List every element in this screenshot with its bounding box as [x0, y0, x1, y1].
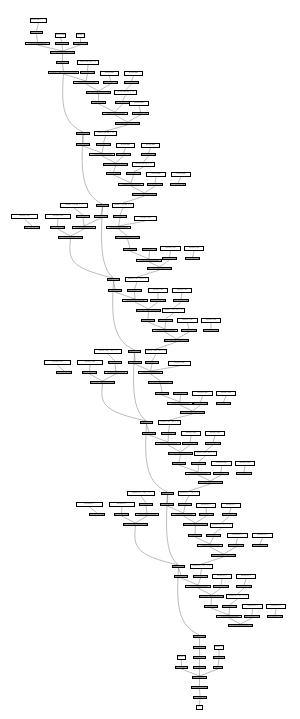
param-node: param (512, 256, 1, 1) [127, 491, 155, 496]
op-node: ReluBackward0 [128, 361, 142, 364]
op-node: AccumulateGrad [182, 442, 198, 445]
op-node: AccumulateGrad [203, 329, 219, 332]
param-node: param (128) [148, 288, 168, 293]
op-node: NativeBatchNormBackward0 [50, 51, 75, 54]
param-node: param (128, 64, 1, 1) [60, 203, 88, 208]
op-node: AccumulateGrad [139, 503, 153, 506]
param-node: param (128) [172, 288, 192, 293]
op-node: AddBackward0 [140, 421, 153, 424]
op-node: AccumulateGrad [124, 81, 139, 84]
param-node: param (256, 128, 1, 1) [94, 349, 122, 354]
op-node: ReluBackward0 [172, 462, 186, 465]
op-node: AccumulateGrad [113, 215, 127, 218]
op-node: AccumulateGrad [193, 402, 208, 405]
op-node: AccumulateGrad [206, 534, 221, 537]
param-node: param (512) [242, 604, 263, 609]
op-node: ReluBackward0 [141, 319, 155, 322]
param-node: param (64) [129, 101, 149, 106]
op-node: ViewBackward0 [193, 666, 206, 669]
op-node: ConvolutionBackward0 [185, 585, 211, 588]
op-node: AccumulateGrad [213, 472, 229, 475]
op-node: ConvolutionBackward0 [72, 226, 96, 229]
op-node: AccumulateGrad [252, 544, 268, 547]
param-node: param (512, 256, 3, 3) [178, 491, 200, 496]
param-node: param (512) [221, 503, 241, 508]
param-node: param (128) [177, 318, 198, 323]
param-node: param (128) [160, 246, 181, 251]
param-node: param (256) [235, 461, 255, 466]
output-node: (1) [196, 705, 203, 710]
op-node: ConvolutionBackward0 [171, 513, 196, 516]
op-node: ReluBackward0 [91, 101, 106, 104]
param-node: param (128) [11, 214, 38, 219]
op-node: ConvolutionBackward0 [73, 81, 99, 84]
param-node: param (256) [216, 391, 236, 396]
op-node: AccumulateGrad [162, 257, 177, 260]
op-node: AccumulateGrad [244, 615, 260, 618]
param-node: param (64, 64, 3, 3) [132, 162, 155, 167]
op-node: ReluBackward0 [106, 172, 121, 175]
op-node: AccumulateGrad [115, 101, 130, 104]
param-node: param (256) [44, 360, 71, 365]
op-node: AccumulateGrad [56, 371, 72, 374]
op-node: NativeBatchNormBackward0 [228, 624, 253, 627]
op-node: AccumulateGrad [89, 513, 105, 516]
param-node: param (512, 512, 3, 3) [226, 594, 249, 599]
op-node: ReluBackward0 [155, 392, 169, 395]
op-node: AccumulateGrad [116, 153, 131, 156]
op-node: AccumulateGrad [228, 544, 244, 547]
param-node: param (512) [236, 574, 256, 579]
op-node: AddBackward0 [107, 278, 120, 281]
op-node: AccumulateGrad [103, 81, 118, 84]
op-node: ConvolutionBackward0 [138, 371, 163, 374]
param-node: param (512) [76, 502, 103, 507]
op-node: NativeBatchNormBackward0 [211, 554, 236, 557]
param-node: param (256) [205, 431, 225, 436]
op-node: ConvolutionBackward0 [197, 544, 223, 547]
param-node: param (128, 128, 3, 3) [162, 308, 185, 313]
param-node: param (64) [116, 143, 135, 148]
param-node: param (512) [266, 604, 286, 609]
op-node: ReluBackward0 [188, 534, 202, 537]
op-node: ReluBackward0 [174, 575, 188, 578]
op-node: TBackward0 [213, 666, 223, 669]
op-node: AddBackward0 [76, 132, 90, 135]
op-node: AccumulateGrad [132, 112, 149, 115]
op-node: ReluBackward0 [204, 605, 218, 608]
param-node: param (64) [76, 33, 85, 38]
param-node: param (1000) [177, 655, 186, 660]
op-node: AccumulateGrad [213, 585, 229, 588]
op-node: AddBackward0 [96, 204, 109, 207]
op-node: ConvolutionBackward0 [135, 513, 159, 516]
param-node: param (64) [100, 71, 119, 76]
param-node: param (64, 64, 3, 3) [94, 131, 117, 136]
param-node: param (512) [196, 503, 216, 508]
param-node: param (64, 64, 3, 3) [77, 60, 99, 65]
op-node: NativeBatchNormBackward0 [164, 339, 189, 342]
op-node: ConvolutionBackward0 [216, 615, 242, 618]
param-node: param (512) [227, 533, 248, 538]
op-node: AccumulateGrad [161, 432, 176, 435]
op-node: AccumulateGrad [142, 248, 157, 251]
op-node: AccumulateGrad [205, 442, 221, 445]
op-node: NativeBatchNormBackward0 [199, 595, 224, 598]
op-node: ConvolutionBackward0 [102, 112, 128, 115]
op-node: NativeBatchNormBackward0 [115, 236, 140, 239]
op-node: NativeBatchNormBackward0 [90, 381, 115, 384]
param-node: param (1000, 512) [214, 645, 224, 650]
op-node: AddBackward0 [161, 492, 174, 495]
param-node: param (256, 128, 3, 3) [145, 349, 167, 354]
op-node: AccumulateGrad [173, 299, 189, 302]
op-node: NativeBatchNormBackward0 [147, 267, 172, 270]
param-node: param (256) [77, 360, 103, 365]
op-node: ConvolutionBackward0 [122, 299, 148, 302]
op-node: AccumulateGrad [191, 462, 206, 465]
op-node: ConvolutionBackward0 [104, 371, 128, 374]
op-node: NativeBatchNormBackward0 [86, 91, 111, 94]
param-node: param (256) [211, 461, 232, 466]
param-node: param (512) [252, 533, 273, 538]
param-node: param (128) [201, 318, 221, 323]
op-node: ReluBackward0 [108, 289, 122, 292]
param-node: param (256, 256, 3, 3) [158, 420, 181, 425]
op-node: AccumulateGrad [150, 299, 166, 302]
